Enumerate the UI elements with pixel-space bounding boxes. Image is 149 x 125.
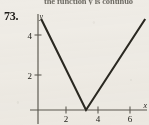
absolute-value-curve	[41, 19, 145, 110]
x-tick-label-6: 6	[128, 114, 133, 124]
y-tick-label-4: 4	[28, 31, 33, 41]
x-axis-label: x	[143, 101, 148, 110]
textbook-exercise-figure: the function y is continuo 73. 2 4 6 2 4…	[0, 0, 149, 125]
x-tick-label-2: 2	[64, 114, 69, 124]
coordinate-graph: 2 4 6 2 4 y x	[0, 0, 149, 125]
y-tick-label-2: 2	[28, 71, 33, 81]
x-tick-label-4: 4	[96, 114, 101, 124]
